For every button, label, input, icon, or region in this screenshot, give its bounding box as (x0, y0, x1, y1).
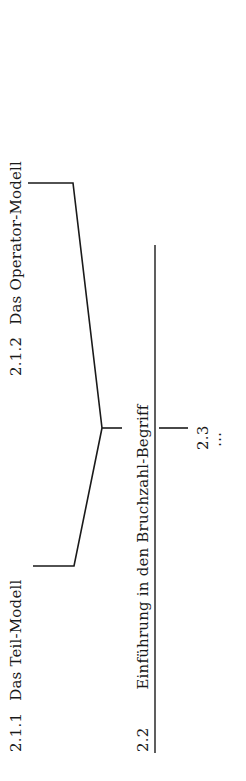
connector-lines (0, 0, 246, 781)
node-22-label: Einführung in den Bruchzahl-Begriff (134, 404, 152, 689)
node-212-number: 2.1.2 (7, 337, 25, 376)
node-212-label: Das Operator-Modell (7, 161, 25, 325)
node-211-number: 2.1.1 (7, 713, 25, 752)
bracket-211-to-22 (33, 428, 102, 566)
node-22-number: 2.2 (134, 728, 152, 752)
continuation-dots: ⋯ (212, 429, 226, 447)
bracket-212-to-22 (28, 183, 102, 428)
node-212: 2.1.2Das Operator-Modell (7, 161, 25, 376)
node-211: 2.1.1Das Teil-Modell (7, 580, 25, 752)
node-211-label: Das Teil-Modell (7, 580, 25, 701)
node-22: 2.2Einführung in den Bruchzahl-Begriff (134, 404, 152, 752)
